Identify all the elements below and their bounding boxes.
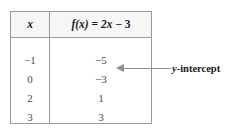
- cell-fx-value: −3: [50, 70, 152, 89]
- cell-x-value: 0: [11, 70, 49, 89]
- column-header-x-label: x: [27, 18, 33, 30]
- cell-x-value: 2: [11, 89, 49, 108]
- fx-argument: (x): [75, 18, 88, 30]
- cell-x-value: −1: [11, 51, 49, 70]
- fx-equals-sign: =: [92, 18, 99, 30]
- fx-constant-term: 3: [125, 18, 131, 30]
- y-intercept-annotation-label: y-intercept: [172, 61, 220, 76]
- figure-canvas: x f(x) = 2x − 3 −1 −5 0 −3 2 1 3 3: [0, 0, 225, 136]
- table-row: 2 1: [11, 89, 151, 108]
- annotation-leader-line: [123, 68, 171, 69]
- table-row: 0 −3: [11, 70, 151, 89]
- table-body: −1 −5 0 −3 2 1 3 3: [11, 38, 151, 123]
- column-header-fx: f(x) = 2x − 3: [50, 12, 152, 37]
- table-row: 3 3: [11, 108, 151, 127]
- fx-minus-sign: −: [115, 18, 122, 30]
- column-header-x: x: [11, 12, 49, 37]
- cell-fx-value: 3: [50, 108, 152, 127]
- fx-linear-term: 2x: [101, 18, 113, 30]
- annotation-label-text: -intercept: [177, 63, 221, 74]
- cell-x-value: 3: [11, 108, 49, 127]
- cell-fx-value: 1: [50, 89, 152, 108]
